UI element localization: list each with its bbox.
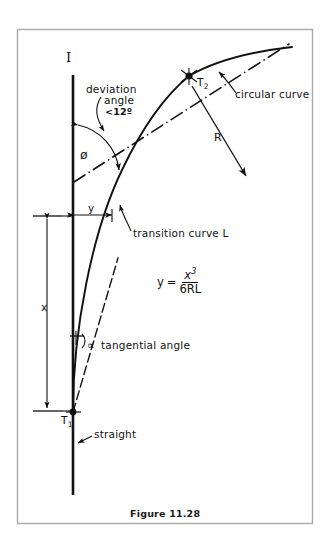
formula-numerator-exponent: 3 <box>191 267 196 276</box>
formula-equals: = <box>167 275 177 289</box>
label-intersection: I <box>66 51 71 66</box>
label-tangent-point-1: T1 <box>61 415 73 429</box>
formula-lhs: y <box>157 275 164 289</box>
t1-letter: T <box>61 414 68 426</box>
figure-caption: Figure 11.28 <box>130 509 200 520</box>
t2-letter: T <box>197 76 204 88</box>
label-distance-x: x <box>41 302 47 314</box>
label-tangent-point-2: T2 <box>197 77 209 91</box>
label-circular-curve: circular curve <box>235 89 309 101</box>
label-radius: R <box>214 132 222 144</box>
label-phi-angle: ø <box>80 148 88 162</box>
label-angle-limit: <12º <box>105 107 132 118</box>
label-alpha-symbol: ∝ <box>87 340 95 352</box>
t1-subscript: 1 <box>68 420 73 429</box>
formula-denominator: 6RL <box>179 283 201 296</box>
label-straight: straight <box>94 429 136 441</box>
t2-subscript: 2 <box>204 82 209 91</box>
label-angle: angle <box>104 95 134 107</box>
figure-container: I deviation angle <12º circular curve T2… <box>0 0 328 549</box>
label-tangential-angle: tangential angle <box>101 340 190 352</box>
offset-formula: y = x3 6RL <box>157 268 201 296</box>
formula-fraction: x3 6RL <box>179 268 201 296</box>
label-offset-y: y <box>88 203 94 215</box>
label-transition-curve: transition curve L <box>133 228 229 240</box>
formula-numerator: x3 <box>182 268 198 283</box>
